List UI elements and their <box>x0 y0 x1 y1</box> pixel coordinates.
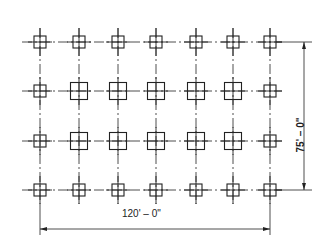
horizontal-dimension-label: 120' – 0" <box>122 208 161 219</box>
vertical-dimension-label: 75' – 0" <box>295 118 306 153</box>
arrowhead-icon <box>40 227 47 231</box>
arrowhead-icon <box>263 227 270 231</box>
grid-drawing <box>0 0 328 250</box>
arrowhead-icon <box>302 183 306 190</box>
column-grid-diagram: 120' – 0" 75' – 0" <box>0 0 328 250</box>
arrowhead-icon <box>302 42 306 49</box>
